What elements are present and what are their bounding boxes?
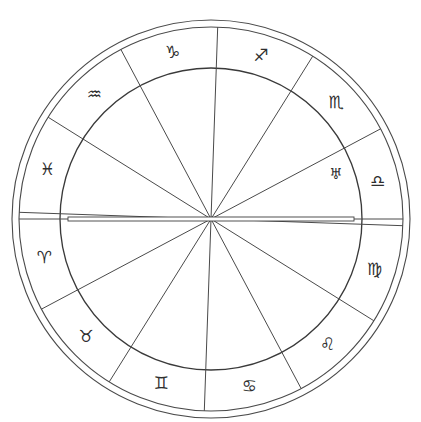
astrology-chart-wheel: ♐♏♎♍♌♋♊♉♈♓♒♑ ♅ <box>0 0 421 422</box>
planet-glyphs: ♅ <box>329 165 342 183</box>
sign-glyph-virgo: ♍ <box>367 259 382 279</box>
house-cusp-line-sagittarius <box>211 27 218 219</box>
sign-glyph-pisces: ♓ <box>40 159 55 179</box>
house-cusp-line-taurus <box>109 219 211 382</box>
sign-glyph-sagittarius: ♐ <box>253 45 268 65</box>
wheel-canvas: ♐♏♎♍♌♋♊♉♈♓♒♑ ♅ <box>0 0 421 422</box>
sign-glyph-cancer: ♋ <box>242 376 257 396</box>
house-cusp-line-leo <box>211 219 374 321</box>
ascendant-axis-bar <box>68 217 354 221</box>
sign-glyph-aquarius: ♒ <box>87 84 102 104</box>
sign-glyph-leo: ♌ <box>320 334 335 354</box>
house-cusp-line-aquarius <box>48 117 211 219</box>
planet-glyph-uranus: ♅ <box>329 165 342 183</box>
ascendant-descendant-axis <box>19 217 403 221</box>
house-cusp-line-gemini <box>204 219 211 411</box>
sign-glyph-libra: ♎ <box>370 171 385 191</box>
house-cusp-line-scorpio <box>211 56 313 219</box>
sign-glyph-gemini: ♊ <box>153 373 168 393</box>
sign-glyph-scorpio: ♏ <box>328 92 343 112</box>
sign-glyph-capricorn: ♑ <box>165 42 180 62</box>
sign-glyph-aries: ♈ <box>37 247 52 267</box>
sign-glyph-taurus: ♉ <box>78 326 93 346</box>
